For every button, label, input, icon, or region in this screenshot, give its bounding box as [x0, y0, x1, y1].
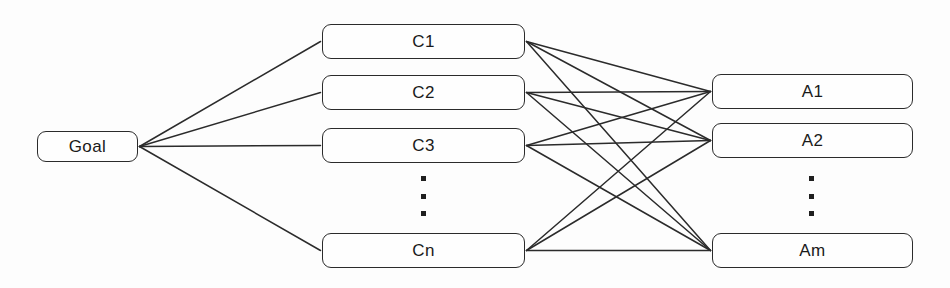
node-a1-label: A1 [802, 83, 824, 100]
edge-c1-to-am [527, 42, 711, 251]
node-c3-label: C3 [412, 137, 435, 154]
edge-goal-to-c2 [140, 93, 321, 147]
alternatives-ellipsis-icon [808, 176, 814, 216]
node-c1-label: C1 [412, 33, 435, 50]
ellipsis-dot [809, 194, 814, 199]
node-cn-label: Cn [412, 242, 435, 259]
criteria-ellipsis-icon [420, 176, 426, 216]
ellipsis-dot [421, 176, 426, 181]
node-cn[interactable]: Cn [322, 233, 525, 268]
node-a1[interactable]: A1 [712, 74, 913, 109]
node-c3[interactable]: C3 [322, 128, 525, 163]
edge-goal-to-c3 [140, 146, 321, 147]
node-a2[interactable]: A2 [712, 123, 913, 158]
node-a2-label: A2 [802, 132, 824, 149]
edge-c1-to-a1 [527, 42, 711, 92]
node-am-label: Am [799, 242, 825, 259]
node-c2-label: C2 [412, 84, 435, 101]
ellipsis-dot [809, 211, 814, 216]
node-c2[interactable]: C2 [322, 75, 525, 110]
edge-goal-to-cn [140, 147, 321, 251]
edge-goal-to-c1 [140, 42, 321, 147]
ellipsis-dot [809, 176, 814, 181]
node-c1[interactable]: C1 [322, 24, 525, 59]
node-goal-label: Goal [69, 138, 107, 155]
node-goal[interactable]: Goal [37, 131, 138, 162]
edge-c2-to-a1 [527, 92, 711, 93]
ellipsis-dot [421, 194, 426, 199]
hierarchy-diagram: Goal C1 C2 C3 Cn A1 A2 Am [0, 0, 950, 288]
ellipsis-dot [421, 211, 426, 216]
node-am[interactable]: Am [712, 233, 913, 268]
edge-c3-to-a2 [527, 141, 711, 146]
